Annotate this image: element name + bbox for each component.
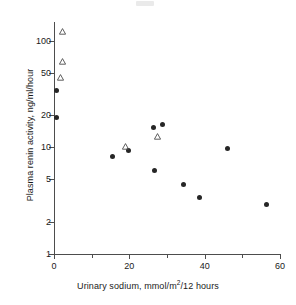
x-tick-mark-60 [280, 254, 281, 259]
x-minor-tick-mark-50 [242, 254, 243, 258]
y-tick-label: 5 [46, 174, 51, 184]
x-tick-label: 60 [275, 261, 285, 271]
y-tick-label: 2 [46, 217, 51, 227]
y-axis-line [54, 22, 55, 254]
data-point-circle [197, 195, 202, 200]
data-point-circle [54, 88, 59, 93]
data-point-circle [151, 125, 156, 130]
y-tick-label: 20 [41, 110, 51, 120]
scan-artifact [136, 1, 154, 6]
plot-area: 100502010521 0204060 [54, 22, 280, 254]
data-point-circle [225, 146, 230, 151]
y-tick-label: 50 [41, 68, 51, 78]
y-tick-label: 1 [46, 249, 51, 259]
x-tick-label: 0 [51, 261, 56, 271]
x-tick-mark-20 [129, 254, 130, 259]
x-tick-mark-0 [54, 254, 55, 259]
y-tick-label: 10 [41, 142, 51, 152]
x-tick-label: 40 [200, 261, 210, 271]
x-minor-tick-mark-10 [92, 254, 93, 258]
data-point-circle [160, 122, 165, 127]
y-tick-label: 100 [36, 36, 51, 46]
data-point-circle [264, 202, 269, 207]
x-axis-label-suffix: /12 hours [181, 281, 219, 291]
x-tick-mark-40 [205, 254, 206, 259]
data-point-circle [152, 168, 157, 173]
data-point-circle [54, 115, 59, 120]
x-axis-label: Urinary sodium, mmol/m2/12 hours [0, 281, 296, 291]
x-minor-tick-mark-30 [167, 254, 168, 258]
scatter-plot-figure: Plasma renin activity, ng/ml/hour Urinar… [0, 0, 296, 305]
data-point-circle [110, 154, 115, 159]
x-tick-label: 20 [124, 261, 134, 271]
data-point-circle [181, 182, 186, 187]
y-axis-label: Plasma renin activity, ng/ml/hour [25, 35, 35, 235]
x-axis-label-prefix: Urinary sodium, mmol/m [77, 281, 177, 291]
